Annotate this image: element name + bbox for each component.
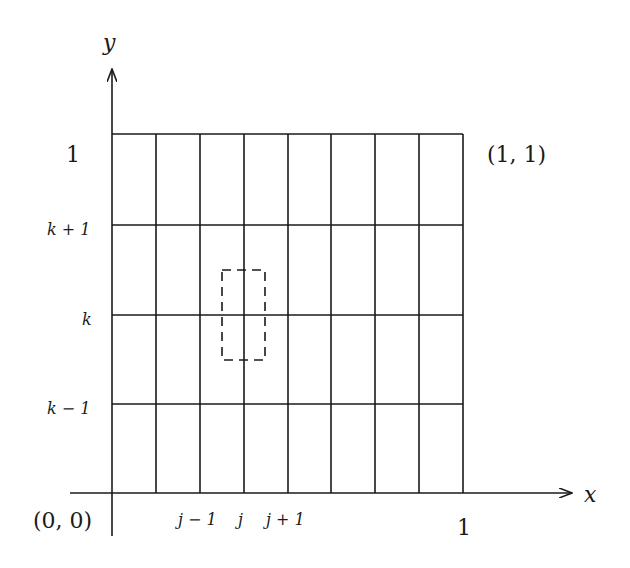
corner-label: (1, 1): [487, 142, 546, 167]
x-end-label: 1: [457, 515, 471, 540]
grid: [112, 134, 463, 493]
x-axis-label: x: [584, 482, 597, 507]
origin-label: (0, 0): [33, 508, 92, 533]
y-tick-k-minus-1: k − 1: [47, 399, 90, 418]
y-end-label: 1: [66, 142, 80, 167]
x-tick-j-minus-1: j − 1: [175, 510, 217, 529]
x-tick-j: j: [235, 510, 243, 529]
y-tick-k-plus-1: k + 1: [47, 220, 90, 239]
y-tick-k: k: [82, 310, 92, 329]
x-tick-j-plus-1: j + 1: [263, 510, 305, 529]
grid-diagram: y x 1 (1, 1) (0, 0) 1 k + 1 k k − 1 j − …: [0, 0, 630, 568]
y-axis-label: y: [102, 30, 116, 55]
